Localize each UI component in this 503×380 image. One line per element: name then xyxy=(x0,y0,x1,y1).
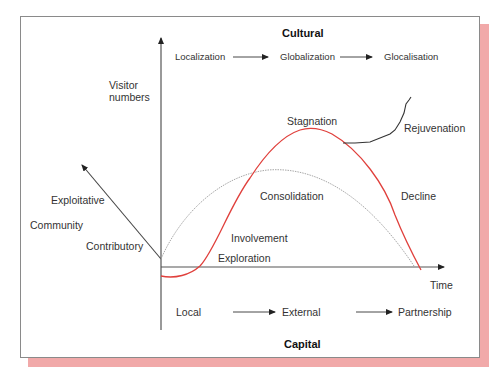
community-curve xyxy=(161,170,414,266)
capital-title: Capital xyxy=(284,338,321,350)
stage-consolidation: Consolidation xyxy=(260,190,324,202)
community-label: Community xyxy=(30,219,83,231)
stage-involvement: Involvement xyxy=(231,232,288,244)
stage-exploration: Exploration xyxy=(218,252,271,264)
capital-stage-partnership: Partnership xyxy=(398,306,452,318)
y-axis-label-line2: numbers xyxy=(109,91,150,103)
rejuvenation-curve xyxy=(343,97,411,143)
stage-stagnation: Stagnation xyxy=(287,115,337,127)
x-axis-label: Time xyxy=(430,279,453,291)
stage-rejuvenation: Rejuvenation xyxy=(404,122,465,134)
cultural-stage-globalization: Globalization xyxy=(280,51,335,63)
y-axis-label-line1: Visitor xyxy=(109,79,138,91)
capital-stage-local: Local xyxy=(176,306,201,318)
capital-stage-external: External xyxy=(282,306,321,318)
community-contributory-label: Contributory xyxy=(86,240,143,252)
cultural-title: Cultural xyxy=(282,27,324,39)
community-exploitative-label: Exploitative xyxy=(51,194,105,206)
cultural-stage-localization: Localization xyxy=(175,51,225,63)
cultural-stage-glocalisation: Glocalisation xyxy=(384,51,438,63)
stage-decline: Decline xyxy=(401,190,436,202)
